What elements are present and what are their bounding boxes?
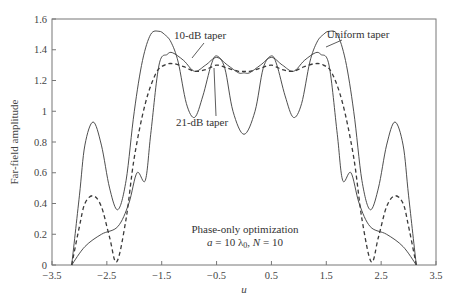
y-tick-label: 0.6 (34, 167, 47, 178)
note-parameters: a = 10 λ0, N = 10 (207, 236, 283, 250)
x-tick-label: −2.5 (97, 270, 116, 281)
x-tick-label: −1.5 (152, 270, 171, 281)
arrow-21db-taper (214, 68, 216, 116)
y-axis-title: Far-field amplitude (8, 99, 20, 184)
x-axis-title: u (241, 283, 247, 295)
arrow-uniform-taper (326, 40, 342, 47)
y-tick-label: 0.4 (34, 198, 48, 209)
label-21db-taper: 21-dB taper (176, 116, 229, 128)
x-tick-label: 3.5 (429, 270, 442, 281)
y-axis-ticks: 00.20.40.60.811.21.41.6 (34, 14, 56, 271)
y-tick-label: 0.2 (34, 229, 47, 240)
y-tick-label: 0 (42, 260, 47, 271)
y-tick-label: 1.2 (34, 75, 47, 86)
note-optimization: Phase-only optimization (191, 223, 299, 235)
y-tick-label: 1.6 (34, 14, 47, 25)
x-tick-label: 1.5 (320, 270, 333, 281)
far-field-amplitude-chart: 00.20.40.60.811.21.41.6 −3.5−2.5−1.5−0.5… (0, 0, 458, 308)
y-tick-label: 0.8 (34, 137, 47, 148)
arrow-10db-taper (192, 43, 204, 58)
x-tick-label: 2.5 (375, 270, 388, 281)
x-tick-label: −0.5 (207, 270, 226, 281)
y-tick-label: 1 (42, 106, 47, 117)
label-uniform-taper: Uniform taper (327, 28, 390, 40)
x-tick-label: −3.5 (42, 270, 61, 281)
x-axis-ticks: −3.5−2.5−1.5−0.50.51.52.53.5 (42, 261, 442, 281)
x-tick-label: 0.5 (265, 270, 278, 281)
y-tick-label: 1.4 (34, 44, 48, 55)
label-10db-taper: 10-dB taper (174, 29, 227, 41)
